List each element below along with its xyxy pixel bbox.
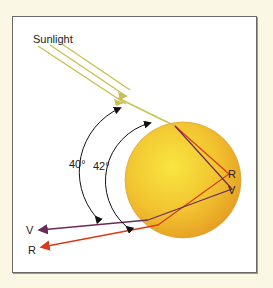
red-inner-label: R (228, 168, 236, 180)
violet-exit-ray (40, 220, 148, 230)
angle-label-40: 40° (69, 158, 86, 170)
violet-inner-label: V (228, 184, 236, 196)
sunlight-rays (38, 44, 175, 126)
violet-out-label: V (26, 224, 34, 236)
sunlight-label: Sunlight (33, 33, 73, 45)
rainbow-refraction-diagram: Sunlight 40° 42° R V V R (0, 0, 273, 288)
red-out-label: R (28, 244, 36, 256)
angle-label-42: 42° (93, 160, 110, 172)
